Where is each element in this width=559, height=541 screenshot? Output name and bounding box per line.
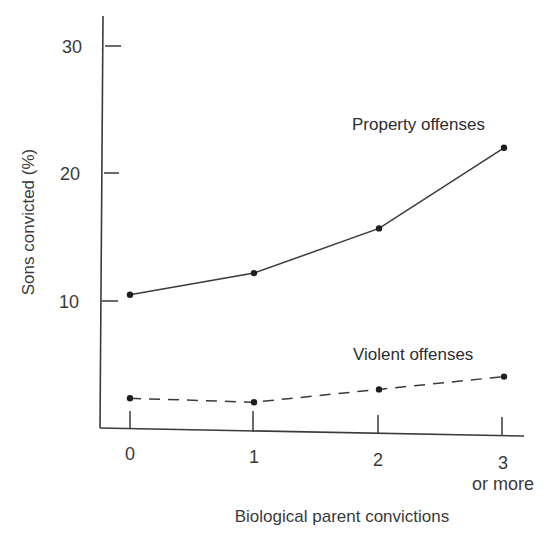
- x-tick-label-2: 2: [373, 450, 383, 470]
- x-tick-sublabel-3: or more: [472, 474, 534, 494]
- y-axis: [100, 16, 103, 428]
- data-point: [376, 225, 382, 231]
- series-label-violent: Violent offenses: [353, 345, 473, 364]
- series-violent-offenses: [127, 373, 507, 405]
- chart: 30 20 10 0 1 2 3 or more Biological pare…: [0, 0, 559, 541]
- data-point: [127, 292, 133, 298]
- data-point: [501, 145, 507, 151]
- y-tick-label-30: 30: [62, 37, 82, 57]
- y-ticks: [102, 46, 121, 301]
- data-point: [376, 386, 382, 392]
- x-tick-labels: 0 1 2 3 or more: [125, 444, 534, 494]
- y-tick-labels: 30 20 10: [59, 37, 82, 312]
- y-tick-label-20: 20: [60, 164, 80, 184]
- y-tick-label-10: 10: [59, 292, 79, 312]
- x-tick-label-3: 3: [498, 453, 508, 473]
- x-tick-label-1: 1: [249, 447, 259, 467]
- series-label-property: Property offenses: [352, 115, 485, 134]
- x-tick-label-0: 0: [125, 444, 135, 464]
- series-property-offenses: [127, 145, 507, 298]
- data-point: [127, 395, 133, 401]
- data-point: [251, 270, 257, 276]
- data-point: [251, 399, 257, 405]
- x-axis-title: Biological parent convictions: [235, 507, 450, 526]
- y-axis-title: Sons convicted (%): [19, 149, 38, 295]
- x-axis: [100, 428, 524, 436]
- data-point: [501, 373, 507, 379]
